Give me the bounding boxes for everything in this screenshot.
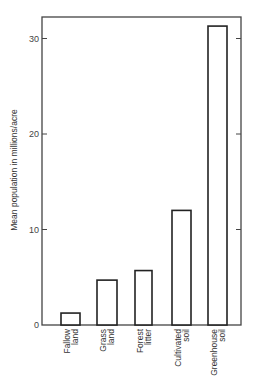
x-category-label: Greenhousesoil	[209, 329, 227, 376]
bar-chart: Mean population in millions/acre 0102030…	[0, 0, 258, 387]
bar-fallow-land	[61, 313, 80, 325]
y-tick-label: 30	[29, 34, 39, 44]
x-axis-category-labels: FallowlandGrasslandForestlitterCultivate…	[62, 328, 227, 376]
bars	[61, 26, 227, 325]
y-axis-title: Mean population in millions/acre	[9, 109, 19, 231]
x-category-label: Grassland	[98, 329, 116, 352]
y-tick-label: 0	[34, 320, 39, 330]
bar-cultivated-soil	[172, 210, 191, 325]
bar-forest-litter	[135, 271, 152, 325]
y-axis-title-text: Mean population in millions/acre	[9, 109, 19, 231]
y-tick-label: 20	[29, 129, 39, 139]
x-category-label: Cultivatedsoil	[173, 329, 191, 367]
bar-greenhouse-soil	[208, 26, 227, 325]
x-category-label: Forestlitter	[135, 328, 153, 353]
y-tick-label: 10	[29, 225, 39, 235]
bar-grass-land	[97, 280, 117, 325]
x-category-label: Fallowland	[62, 328, 80, 353]
